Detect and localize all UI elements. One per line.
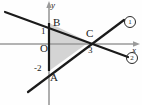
line-1-badge: 1 [124, 16, 136, 28]
point-label-a: A [50, 72, 58, 83]
point-label-c: C [86, 28, 93, 39]
point-label-b: B [53, 17, 60, 28]
geometry-figure: x y O 1 -2 3 A B C 1 2 [0, 0, 142, 105]
circled-two-icon: 2 [126, 52, 138, 64]
y-axis-label: y [51, 1, 55, 10]
origin-label: O [40, 43, 48, 54]
figure-canvas [0, 0, 142, 105]
line-2-badge: 2 [126, 52, 138, 64]
y-tick-label-neg2: -2 [34, 64, 42, 73]
circled-one-icon: 1 [124, 16, 136, 28]
y-tick-label-1: 1 [41, 27, 46, 36]
x-tick-label-3: 3 [88, 46, 93, 55]
